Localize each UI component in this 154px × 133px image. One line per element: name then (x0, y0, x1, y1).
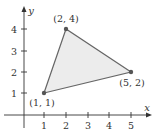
vertex-point (64, 27, 68, 31)
x-tick-label: 5 (128, 120, 134, 131)
x-tick-label: 4 (106, 120, 112, 131)
x-axis-label: x (144, 102, 150, 113)
y-tick-label: 3 (11, 46, 17, 57)
x-tick-label: 3 (85, 120, 91, 131)
chart-canvas: 1 2 3 4 5 4 3 2 1 x y (1, 1) (2, 4) (5, … (0, 0, 154, 133)
x-axis-arrow-icon (146, 113, 152, 118)
y-tick-label: 1 (11, 88, 17, 99)
y-tick-label: 4 (11, 24, 17, 35)
triangle-region (44, 29, 131, 93)
y-axis-label: y (27, 5, 34, 16)
y-axis-arrow-icon (22, 6, 27, 12)
triangle-plot: 1 2 3 4 5 4 3 2 1 x y (1, 1) (2, 4) (5, … (0, 0, 154, 133)
vertex-label: (5, 2) (119, 77, 145, 88)
x-tick-label: 2 (63, 120, 69, 131)
vertex-point (129, 70, 133, 74)
vertex-label: (2, 4) (53, 13, 79, 24)
vertex-point (42, 91, 46, 95)
y-tick-label: 2 (11, 67, 17, 78)
vertex-label: (1, 1) (29, 97, 55, 108)
x-tick-label: 1 (41, 120, 47, 131)
